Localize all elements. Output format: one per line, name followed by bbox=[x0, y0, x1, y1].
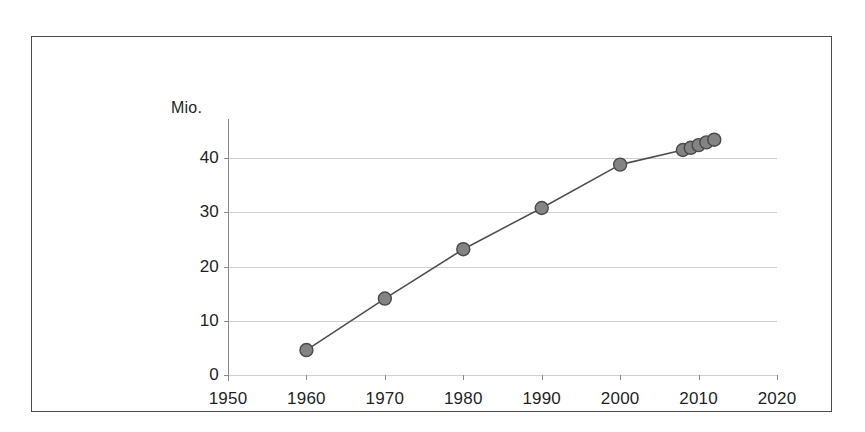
x-tick bbox=[228, 375, 229, 380]
y-axis-unit-label: Mio. bbox=[171, 99, 202, 117]
plot-area: 010203040 195019601970198019902000201020… bbox=[228, 131, 777, 375]
x-tick bbox=[463, 375, 464, 380]
y-tick-label: 10 bbox=[200, 311, 219, 331]
y-tick-label: 30 bbox=[200, 202, 219, 222]
x-tick-label: 1970 bbox=[366, 389, 405, 409]
data-point-marker bbox=[457, 243, 470, 256]
series-line-mio bbox=[306, 140, 714, 350]
x-tick bbox=[306, 375, 307, 380]
x-tick-label: 2010 bbox=[679, 389, 718, 409]
y-tick-label: 40 bbox=[200, 148, 219, 168]
x-tick bbox=[699, 375, 700, 380]
x-tick-label: 1990 bbox=[522, 389, 561, 409]
x-tick-label: 1980 bbox=[444, 389, 483, 409]
data-point-marker bbox=[708, 133, 721, 146]
data-point-marker bbox=[378, 292, 391, 305]
x-tick bbox=[542, 375, 543, 380]
x-tick-label: 2020 bbox=[758, 389, 797, 409]
data-point-marker bbox=[614, 158, 627, 171]
data-point-marker bbox=[535, 202, 548, 215]
gridline-y bbox=[228, 375, 777, 376]
chart-page: Mio. 010203040 1950196019701980199020002… bbox=[0, 0, 865, 432]
series-markers bbox=[300, 133, 721, 356]
y-tick-label: 0 bbox=[209, 365, 219, 385]
x-tick-label: 1960 bbox=[287, 389, 326, 409]
x-tick-label: 1950 bbox=[209, 389, 248, 409]
series-plot bbox=[228, 131, 777, 375]
x-tick bbox=[385, 375, 386, 380]
x-tick bbox=[777, 375, 778, 380]
x-tick-label: 2000 bbox=[601, 389, 640, 409]
chart-frame: Mio. 010203040 1950196019701980199020002… bbox=[31, 36, 832, 412]
x-tick bbox=[620, 375, 621, 380]
y-tick-label: 20 bbox=[200, 257, 219, 277]
data-point-marker bbox=[300, 344, 313, 357]
